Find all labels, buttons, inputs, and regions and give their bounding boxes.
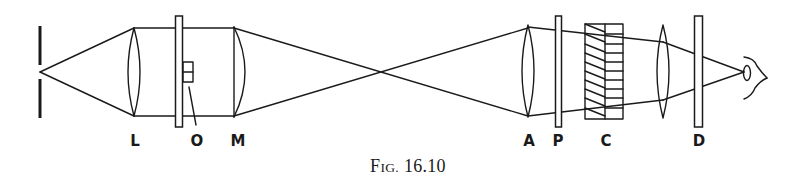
caption-prefix-small: IG.	[380, 160, 399, 175]
slide-plate	[176, 16, 183, 127]
caption-prefix-cap: F	[370, 156, 380, 176]
label-p: P	[553, 132, 564, 150]
lens-eyepiece	[657, 25, 669, 118]
light-rays	[40, 27, 744, 116]
plate-d	[695, 16, 703, 127]
label-o: O	[191, 132, 204, 150]
lens-m	[234, 27, 245, 117]
plate-p	[556, 16, 562, 127]
label-c: C	[600, 132, 611, 150]
figure-caption: FIG.16.10	[370, 156, 446, 176]
eye-icon	[744, 57, 768, 99]
label-a: A	[523, 132, 535, 150]
label-d: D	[693, 132, 705, 150]
label-l: L	[130, 132, 140, 150]
lens-a	[522, 25, 534, 117]
lens-l	[128, 28, 140, 116]
caption-number: 16.10	[404, 156, 446, 176]
optical-diagram: L O M A P C D FIG.16.10	[0, 0, 808, 184]
label-m: M	[231, 132, 246, 150]
